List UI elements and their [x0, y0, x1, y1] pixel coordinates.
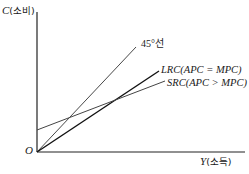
origin-label: O — [25, 144, 33, 156]
line-src — [37, 81, 165, 130]
x-axis-label: Y(소득) — [200, 154, 232, 168]
line-45-degree — [37, 47, 136, 152]
line-45-label: 45°선 — [141, 35, 164, 50]
line-lrc — [37, 71, 159, 152]
y-axis-kr: (소비) — [9, 5, 34, 16]
x-axis-kr: (소득) — [206, 156, 231, 167]
lrc-label: LRC(APC = MPC) — [161, 64, 242, 75]
y-axis-label: C(소비) — [2, 3, 35, 17]
src-label: SRC(APC > MPC) — [167, 77, 247, 88]
